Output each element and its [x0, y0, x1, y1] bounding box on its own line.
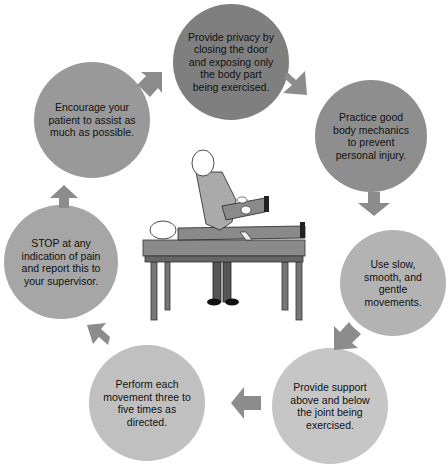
arrow-icon — [231, 387, 261, 419]
arrow-icon — [283, 71, 307, 95]
arrow-icon — [137, 72, 162, 97]
arrows-and-illustration — [0, 0, 448, 464]
arrow-icon — [87, 323, 110, 345]
arrow-icon — [50, 185, 78, 208]
arrow-icon — [334, 322, 361, 350]
arrow-icon — [358, 192, 390, 216]
exercise-illustration-icon — [143, 150, 305, 320]
